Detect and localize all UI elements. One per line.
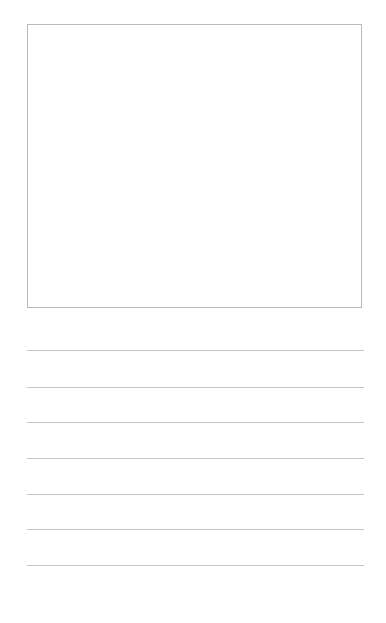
writing-line (27, 529, 364, 530)
writing-line (27, 458, 364, 459)
writing-lines (0, 0, 386, 623)
writing-line (27, 387, 364, 388)
writing-line (27, 350, 364, 351)
writing-line (27, 494, 364, 495)
writing-line (27, 565, 364, 566)
writing-line (27, 422, 364, 423)
